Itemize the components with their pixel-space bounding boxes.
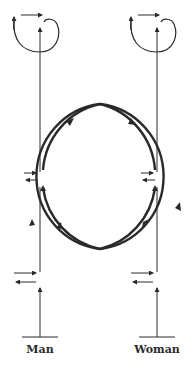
outer-left-arc (36, 104, 100, 249)
outer-right-arc (100, 104, 164, 249)
outer-right-arrowhead (175, 202, 181, 211)
outer-left-arrowhead (29, 219, 35, 226)
woman-loop-curve (131, 18, 176, 52)
woman-self-loop (131, 15, 176, 100)
man-self-loop (14, 15, 59, 100)
interaction-diagram (0, 0, 196, 367)
label-woman: Woman (127, 343, 187, 356)
label-man: Man (10, 343, 70, 356)
man-inner-arc-tip (40, 185, 46, 191)
man-loop-curve (14, 18, 59, 52)
